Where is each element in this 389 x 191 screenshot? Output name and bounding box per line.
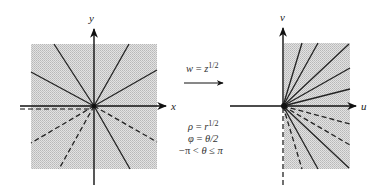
rho-equation: ρ = r1/2 xyxy=(187,119,219,132)
x-axis-label: x xyxy=(170,100,176,112)
z-origin xyxy=(92,104,96,108)
v-axis-label: v xyxy=(280,11,285,23)
w-plane: u v xyxy=(230,11,367,187)
mapping-equation: w = z1/2 xyxy=(186,61,219,74)
conformal-mapping-figure: x y w = z1/2 ρ = r1/2 φ = θ/2 −π < θ ≤ π xyxy=(0,0,389,191)
w-origin xyxy=(281,103,287,109)
phi-equation: φ = θ/2 xyxy=(188,133,219,144)
y-axis-label: y xyxy=(88,12,94,24)
theta-range: −π < θ ≤ π xyxy=(179,145,224,156)
mapping-annotation: w = z1/2 ρ = r1/2 φ = θ/2 −π < θ ≤ π xyxy=(179,61,224,156)
u-axis-label: u xyxy=(361,100,367,112)
z-plane: x y xyxy=(20,12,176,185)
